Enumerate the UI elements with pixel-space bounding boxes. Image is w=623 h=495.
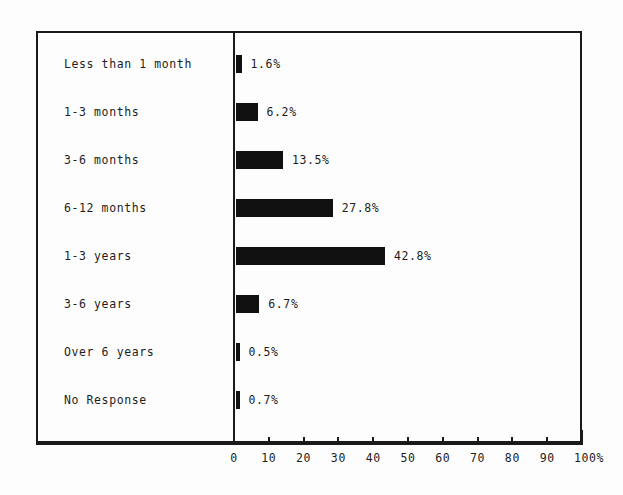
bar [236, 151, 283, 169]
x-tick-label: 0 [230, 451, 238, 465]
x-tick-mark [372, 437, 374, 445]
x-tick-mark [546, 437, 548, 445]
category-label: 1-3 months [64, 105, 139, 119]
bar [236, 247, 385, 265]
x-tick-mark [303, 437, 305, 445]
bar-row: 6-12 months27.8% [38, 184, 584, 232]
plot-frame: Less than 1 month1.6%1-3 months6.2%3-6 m… [36, 31, 582, 443]
x-tick-label: 60 [435, 451, 450, 465]
bar [236, 199, 333, 217]
bar-track: 13.5% [236, 151, 584, 169]
x-axis: 0102030405060708090100% [36, 443, 582, 483]
x-tick-label: 10 [261, 451, 276, 465]
x-tick-label: 100% [574, 451, 604, 465]
bar-track: 6.7% [236, 295, 584, 313]
bar-chart: Less than 1 month1.6%1-3 months6.2%3-6 m… [0, 0, 623, 495]
category-label: 1-3 years [64, 249, 132, 263]
x-tick-label: 50 [400, 451, 415, 465]
x-tick-mark [477, 437, 479, 445]
category-label: Over 6 years [64, 345, 154, 359]
bar-value-label: 13.5% [292, 153, 330, 167]
x-tick-mark [511, 437, 513, 445]
bar-row: Less than 1 month1.6% [38, 40, 584, 88]
category-label: 6-12 months [64, 201, 147, 215]
x-tick-label: 30 [331, 451, 346, 465]
bar-track: 0.7% [236, 391, 584, 409]
bar-row: 3-6 years6.7% [38, 280, 584, 328]
bar-track: 0.5% [236, 343, 584, 361]
bar-row: 3-6 months13.5% [38, 136, 584, 184]
bar-row: 1-3 years42.8% [38, 232, 584, 280]
category-label: Less than 1 month [64, 57, 192, 71]
bar-value-label: 27.8% [342, 201, 380, 215]
bar-value-label: 0.7% [249, 393, 279, 407]
bar-value-label: 1.6% [251, 57, 281, 71]
bar [236, 343, 240, 361]
bar [236, 391, 240, 409]
bar-row: 1-3 months6.2% [38, 88, 584, 136]
x-tick-label: 40 [366, 451, 381, 465]
bar-track: 1.6% [236, 55, 584, 73]
bar [236, 295, 259, 313]
x-tick-mark [442, 437, 444, 445]
bar-row: No Response0.7% [38, 376, 584, 424]
bar-value-label: 6.7% [268, 297, 298, 311]
bar-track: 27.8% [236, 199, 584, 217]
x-tick-mark [407, 437, 409, 445]
x-tick-label: 20 [296, 451, 311, 465]
bar-track: 6.2% [236, 103, 584, 121]
bar-row: Over 6 years0.5% [38, 328, 584, 376]
category-label: 3-6 months [64, 153, 139, 167]
x-tick-mark [233, 430, 235, 445]
bar [236, 55, 242, 73]
bar-value-label: 0.5% [249, 345, 279, 359]
bar-value-label: 6.2% [267, 105, 297, 119]
x-tick-label: 70 [470, 451, 485, 465]
category-label: No Response [64, 393, 147, 407]
bar-track: 42.8% [236, 247, 584, 265]
bar [236, 103, 258, 121]
x-tick-mark [581, 430, 583, 445]
x-tick-label: 90 [540, 451, 555, 465]
category-label: 3-6 years [64, 297, 132, 311]
x-axis-line [36, 443, 582, 445]
bar-value-label: 42.8% [394, 249, 432, 263]
value-axis-line [233, 31, 235, 443]
x-tick-mark [337, 437, 339, 445]
x-tick-label: 80 [505, 451, 520, 465]
x-tick-mark [268, 437, 270, 445]
